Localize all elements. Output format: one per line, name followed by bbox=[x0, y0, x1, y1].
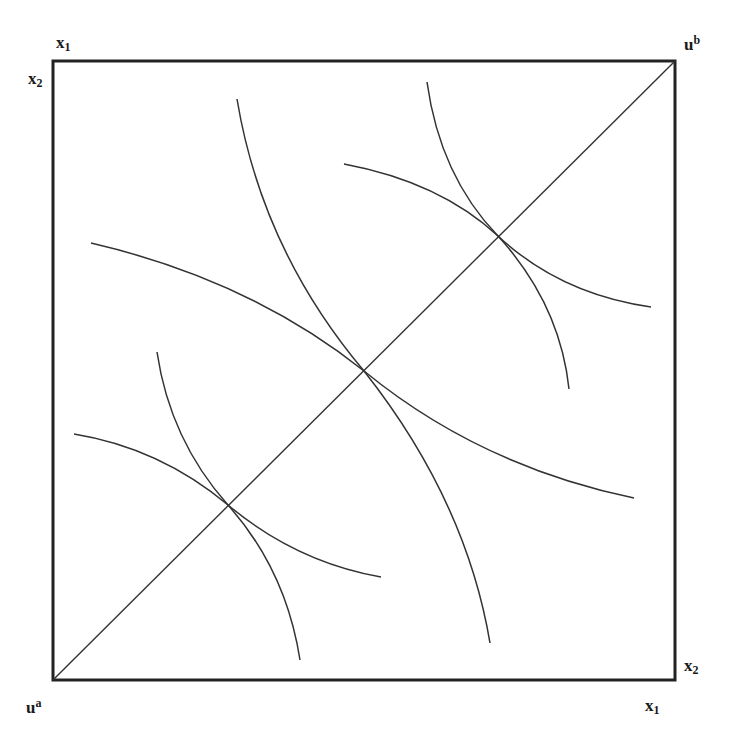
label-top-x1: x1 bbox=[56, 34, 71, 53]
indifference-curve-b-low bbox=[157, 352, 300, 660]
label-origin-ub: ub bbox=[684, 34, 700, 53]
label-bottom-x1: x1 bbox=[645, 697, 660, 716]
label-origin-ua: ua bbox=[26, 697, 41, 716]
label-right-x2: x2 bbox=[684, 657, 699, 676]
indifference-curve-b-mid bbox=[237, 99, 490, 643]
indifference-curve-a-mid bbox=[91, 243, 634, 498]
label-top-x2: x2 bbox=[28, 70, 43, 89]
edgeworth-box-diagram bbox=[0, 0, 732, 745]
indifference-curve-b-high bbox=[427, 82, 569, 389]
